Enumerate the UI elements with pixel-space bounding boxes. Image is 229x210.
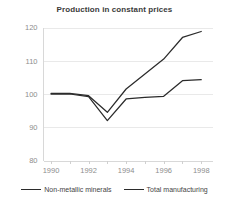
- x-tick-label: 1994: [118, 166, 135, 175]
- x-tick-label: 1992: [80, 166, 97, 175]
- x-axis-tick-labels: 19901992199419961998: [43, 166, 210, 175]
- y-tick-label: 110: [26, 57, 38, 66]
- chart-plot-area: 8090100110120 19901992199419961998: [0, 0, 229, 210]
- x-tick-label: 1996: [155, 166, 172, 175]
- y-tick-label: 100: [25, 90, 38, 99]
- x-tick-label: 1990: [43, 166, 60, 175]
- legend-item[interactable]: Total manufacturing: [124, 186, 208, 193]
- chart-legend: Non-metallic mineralsTotal manufacturing: [0, 186, 229, 193]
- series-line: [51, 31, 201, 112]
- series-line: [51, 80, 201, 121]
- y-tick-label: 90: [29, 123, 37, 132]
- y-axis-tick-labels: 8090100110120: [25, 23, 38, 165]
- legend-line-swatch: [21, 189, 41, 190]
- y-tick-label: 80: [29, 156, 37, 165]
- legend-label: Total manufacturing: [147, 186, 208, 193]
- chart-container: Production in constant prices 8090100110…: [0, 0, 229, 210]
- legend-label: Non-metallic minerals: [44, 186, 111, 193]
- x-tick-label: 1998: [193, 166, 210, 175]
- y-tick-label: 120: [25, 23, 38, 32]
- data-series: [51, 31, 201, 120]
- legend-line-swatch: [124, 189, 144, 190]
- legend-item[interactable]: Non-metallic minerals: [21, 186, 111, 193]
